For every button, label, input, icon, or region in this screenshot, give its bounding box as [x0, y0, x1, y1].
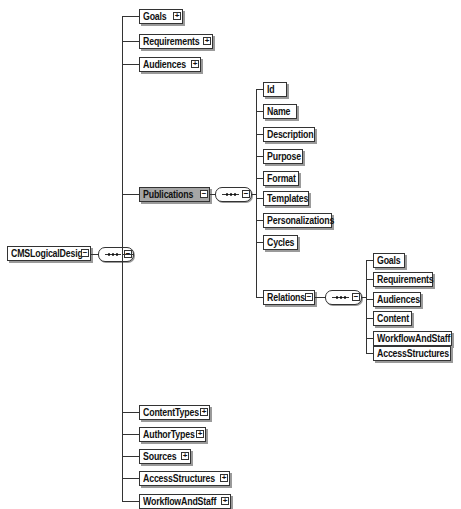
connector [122, 456, 139, 457]
connector [366, 353, 373, 354]
node-label: WorkflowAndStaff [143, 495, 216, 508]
connector [315, 297, 325, 298]
node-label: Requirements [143, 35, 200, 48]
node-label: Templates [267, 192, 308, 205]
node-label: Requirements [377, 273, 434, 286]
node-audiences[interactable]: Audiences + [139, 57, 201, 72]
node-id[interactable]: Id [263, 82, 287, 97]
node-relations-requirements[interactable]: Requirements [373, 272, 433, 287]
expand-icon[interactable]: + [181, 452, 189, 460]
sequence-compositor[interactable]: − [325, 290, 362, 305]
connector [366, 338, 373, 339]
connector [256, 220, 263, 221]
node-goals[interactable]: Goals + [139, 9, 183, 24]
node-label: AuthorTypes [143, 428, 195, 441]
connector [256, 89, 263, 90]
node-label: ContentTypes [143, 406, 199, 419]
connector [122, 478, 139, 479]
expand-icon[interactable]: + [200, 408, 208, 416]
connector [256, 178, 263, 179]
expand-icon[interactable]: + [220, 474, 228, 482]
sequence-compositor[interactable]: − [215, 187, 252, 202]
node-relations[interactable]: Relations − [263, 290, 315, 305]
node-label: AccessStructures [143, 472, 215, 485]
node-requirements[interactable]: Requirements + [139, 34, 213, 49]
connector [122, 434, 139, 435]
node-label: Publications [143, 188, 193, 201]
expand-icon[interactable]: + [221, 497, 229, 505]
connector [256, 297, 263, 298]
collapse-icon[interactable]: − [305, 293, 313, 301]
node-label: Content [377, 312, 409, 325]
node-cycles[interactable]: Cycles [263, 235, 298, 250]
node-label: AccessStructures [377, 347, 449, 360]
node-label: Audiences [143, 58, 186, 71]
node-label: CMSLogicalDesign [11, 247, 88, 260]
node-label: Audiences [377, 293, 420, 306]
connector [256, 111, 263, 112]
node-sources[interactable]: Sources + [139, 449, 191, 464]
node-label: Purpose [267, 150, 301, 163]
branch-line [256, 89, 257, 298]
node-name[interactable]: Name [263, 104, 297, 119]
connector [122, 64, 139, 65]
connector [122, 16, 139, 17]
connector [122, 194, 139, 195]
node-purpose[interactable]: Purpose [263, 149, 303, 164]
node-relations-goals[interactable]: Goals [373, 253, 405, 268]
expand-icon[interactable]: + [203, 37, 211, 45]
node-label: Format [267, 172, 296, 185]
sequence-icon [105, 254, 121, 255]
node-label: Personalizations [267, 214, 334, 227]
connector [122, 254, 134, 255]
branch-line [366, 260, 367, 354]
connector [366, 279, 373, 280]
node-label: WorkflowAndStaff [377, 332, 450, 345]
node-format[interactable]: Format [263, 171, 299, 186]
node-personalizations[interactable]: Personalizations [263, 213, 332, 228]
sequence-icon [332, 297, 349, 298]
collapse-icon[interactable]: − [242, 190, 250, 198]
node-authortypes[interactable]: AuthorTypes + [139, 427, 206, 442]
node-label: Goals [143, 10, 167, 23]
sequence-icon [222, 194, 239, 195]
node-publications[interactable]: Publications − [139, 187, 210, 202]
node-label: Cycles [267, 236, 294, 249]
connector [122, 41, 139, 42]
connector [122, 412, 139, 413]
connector [256, 134, 263, 135]
connector [256, 156, 263, 157]
connector [256, 198, 263, 199]
collapse-icon[interactable]: − [352, 293, 360, 301]
node-label: Relations [267, 291, 305, 304]
node-label: Id [267, 83, 274, 96]
connector [122, 501, 139, 502]
node-relations-content[interactable]: Content [373, 311, 412, 326]
node-label: Name [267, 105, 290, 118]
node-workflowandstaff[interactable]: WorkflowAndStaff + [139, 494, 231, 509]
expand-icon[interactable]: + [191, 60, 199, 68]
connector [366, 299, 373, 300]
node-templates[interactable]: Templates [263, 191, 309, 206]
node-cmslogicaldesign[interactable]: CMSLogicalDesign − [7, 246, 91, 261]
collapse-icon[interactable]: − [81, 249, 89, 257]
node-relations-audiences[interactable]: Audiences [373, 292, 421, 307]
node-relations-workflowandstaff[interactable]: WorkflowAndStaff [373, 331, 452, 346]
node-label: Sources [143, 450, 177, 463]
node-label: Goals [377, 254, 401, 267]
connector [256, 242, 263, 243]
expand-icon[interactable]: + [173, 12, 181, 20]
connector [91, 254, 98, 255]
schema-diagram: CMSLogicalDesign − − Goals + Requirement… [0, 0, 461, 509]
node-accessstructures[interactable]: AccessStructures + [139, 471, 230, 486]
connector [366, 260, 373, 261]
node-label: Description [267, 128, 313, 141]
node-relations-accessstructures[interactable]: AccessStructures [373, 346, 451, 361]
connector [366, 318, 373, 319]
expand-icon[interactable]: + [196, 430, 204, 438]
node-contenttypes[interactable]: ContentTypes + [139, 405, 210, 420]
node-description[interactable]: Description [263, 127, 315, 142]
collapse-icon[interactable]: − [200, 190, 208, 198]
trunk-line [122, 16, 123, 502]
